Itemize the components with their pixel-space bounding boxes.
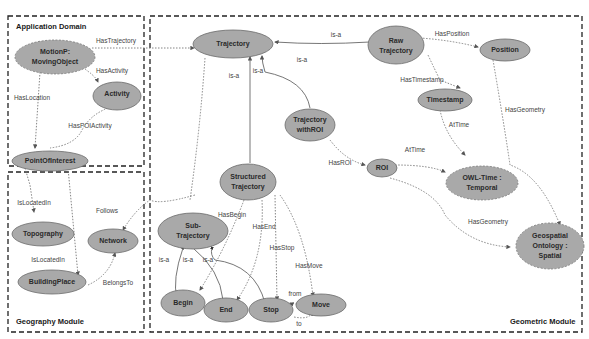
label-has-location: HasLocation [14, 94, 51, 101]
label-has-stop: HasStop [270, 244, 295, 252]
node-network[interactable]: Network [88, 229, 138, 253]
label-follows: Follows [96, 207, 119, 214]
node-end[interactable]: End [204, 298, 248, 322]
node-trajectory-with-roi[interactable]: Trajectory withROI [285, 109, 335, 141]
svg-text:Raw: Raw [389, 37, 404, 44]
node-begin[interactable]: Begin [161, 290, 205, 316]
edge-has-geometry-1 [493, 60, 560, 225]
node-roi[interactable]: ROI [367, 159, 397, 177]
svg-text:Trajectory: Trajectory [216, 40, 250, 48]
edge-trajectory-follows [190, 58, 205, 200]
edge-is-a-raw [275, 42, 370, 44]
svg-text:Trajectory: Trajectory [176, 232, 210, 240]
label-has-activity: HasActivity [96, 67, 129, 75]
svg-text:PointOfInterest: PointOfInterest [25, 157, 76, 164]
node-point-of-interest[interactable]: PointOfInterest [12, 151, 88, 171]
svg-text:Trajectory: Trajectory [231, 183, 265, 191]
svg-text:Geospatial: Geospatial [532, 232, 568, 240]
svg-text:Sub-: Sub- [185, 222, 201, 229]
svg-text:Topography: Topography [23, 230, 63, 238]
geometric-module-title: Geometric Module [510, 317, 575, 326]
edge-is-a-withroi [262, 56, 310, 108]
svg-text:Temporal: Temporal [467, 184, 498, 192]
label-has-roi: HasROI [328, 159, 351, 166]
label-has-position: HasPosition [435, 30, 470, 37]
label-is-a-end: is-a [183, 256, 194, 263]
svg-text:Structured: Structured [230, 173, 265, 180]
edge-at-time-1 [440, 110, 465, 155]
svg-text:Stop: Stop [263, 306, 279, 314]
node-structured-trajectory[interactable]: Structured Trajectory [220, 164, 276, 200]
node-topography[interactable]: Topography [12, 222, 74, 246]
svg-text:ROI: ROI [376, 164, 389, 171]
node-move[interactable]: Move [296, 294, 346, 316]
label-has-move: HasMove [295, 262, 323, 269]
label-has-end: HasEnd [252, 223, 276, 230]
svg-text:OWL-Time :: OWL-Time : [462, 174, 501, 181]
svg-text:BuildingPlace: BuildingPlace [29, 278, 75, 286]
label-has-begin: HasBegin [218, 211, 247, 219]
svg-text:MovingObject: MovingObject [32, 58, 79, 66]
svg-text:Timestamp: Timestamp [427, 96, 464, 104]
geography-module-title: Geography Module [16, 317, 84, 326]
edge-has-position [420, 38, 478, 47]
node-geospatial-ontology[interactable]: Geospatial Ontology : Spatial [516, 223, 584, 269]
svg-text:End: End [219, 306, 232, 313]
svg-text:Begin: Begin [173, 299, 192, 307]
node-timestamp[interactable]: Timestamp [418, 89, 472, 111]
label-has-timestamp: HasTimestamp [400, 76, 444, 84]
node-sub-trajectory[interactable]: Sub- Trajectory [158, 213, 228, 249]
node-position[interactable]: Position [480, 39, 530, 61]
label-at-time-2: AtTime [405, 146, 426, 153]
label-is-a-raw: is-a [331, 31, 342, 38]
label-has-geometry-2: HasGeometry [468, 218, 509, 226]
ontology-diagram: Application Domain Geography Module Geom… [0, 0, 589, 339]
label-is-a-stop: is-a [203, 256, 214, 263]
edge-is-located-in-2 [68, 168, 78, 275]
svg-text:Move: Move [312, 301, 330, 308]
label-is-a-begin: is-a [159, 256, 170, 263]
node-activity[interactable]: Activity [93, 82, 141, 110]
label-is-a-2: is-a [297, 56, 308, 63]
geometric-module [150, 16, 582, 332]
svg-text:withROI: withROI [296, 126, 323, 133]
svg-text:Network: Network [99, 237, 127, 244]
node-raw-trajectory[interactable]: Raw Trajectory [368, 26, 424, 64]
label-is-located-in-2: IsLocatedIn [31, 256, 65, 263]
label-is-a-withroi: is-a [253, 67, 264, 74]
edge-has-timestamp [428, 55, 460, 88]
label-belongs-to: BelongsTo [103, 279, 134, 287]
svg-text:Trajectory: Trajectory [379, 47, 413, 55]
label-has-poi-activity: HasPOIActivity [68, 122, 112, 130]
application-domain-title: Application Domain [16, 22, 87, 31]
edge-has-location [35, 72, 40, 148]
label-is-a-structured: is-a [229, 72, 240, 79]
label-has-trajectory: HasTrajectory [96, 37, 137, 45]
node-motionp[interactable]: MotionP: MovingObject [15, 40, 95, 74]
svg-text:Ontology :: Ontology : [533, 242, 568, 250]
label-has-geometry-1: HasGeometry [505, 106, 546, 114]
label-from: from [289, 290, 302, 297]
svg-text:Position: Position [491, 46, 519, 53]
svg-text:MotionP:: MotionP: [40, 48, 70, 55]
node-stop[interactable]: Stop [249, 298, 293, 322]
label-at-time-1: AtTime [449, 121, 470, 128]
svg-text:Activity: Activity [104, 90, 129, 98]
svg-text:Trajectory: Trajectory [293, 116, 327, 124]
node-trajectory[interactable]: Trajectory [193, 30, 273, 58]
node-building-place[interactable]: BuildingPlace [18, 270, 86, 294]
node-owl-time[interactable]: OWL-Time : Temporal [446, 166, 518, 200]
edge-at-time-2 [395, 165, 445, 172]
label-is-located-in-1: IsLocatedIn [17, 199, 51, 206]
label-to: to [296, 320, 302, 327]
svg-text:Spatial: Spatial [539, 252, 562, 260]
